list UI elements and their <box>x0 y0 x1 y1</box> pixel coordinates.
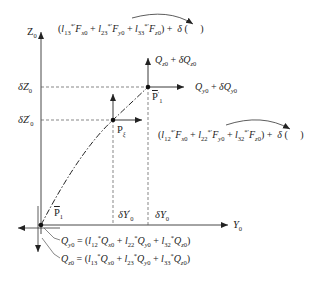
top-equation: (l13*′Fx0 + l23*′Fy0 + l33*′Fz0) + δ ( ) <box>58 24 204 34</box>
point-p1 <box>39 223 44 228</box>
dy0-prime-label: δY′0 <box>118 210 133 221</box>
middle-eq-arrow <box>226 120 290 129</box>
leader-qy <box>44 228 60 240</box>
y-axis-label: Y0 <box>233 220 242 231</box>
qy-vector-label: Qy0 + δQy0 <box>195 82 237 92</box>
p1-prime-label: P′1 <box>152 92 163 103</box>
point-p1-prime <box>146 85 151 90</box>
qz-vector-label: Qz0 + δQz0 <box>155 55 196 65</box>
leader-qz <box>42 238 60 258</box>
middle-equation: (l12*′Fx0 + l22*′Fy0 + l32*′Fz0) + δ ( ) <box>158 130 304 140</box>
dz0-prime-label: δZ′0 <box>18 115 33 126</box>
point-p-xi <box>111 118 116 123</box>
bottom-equation-qz: Qz0 = (l13*Qx0 + l23*Qy0 + l33*Qz0) <box>61 254 190 264</box>
dz0-label: δZ0 <box>18 82 32 93</box>
dy0-label: δY0 <box>155 210 169 221</box>
deformation-curve <box>41 87 148 225</box>
bottom-equation-qy: Qy0 = (l12*Qx0 + l22*Qy0 + l32*Qz0) <box>61 236 190 246</box>
z-axis-label: Z0 <box>27 27 37 38</box>
p1-label: P1 <box>54 208 63 219</box>
p-xi-label: Pξ <box>117 125 126 136</box>
